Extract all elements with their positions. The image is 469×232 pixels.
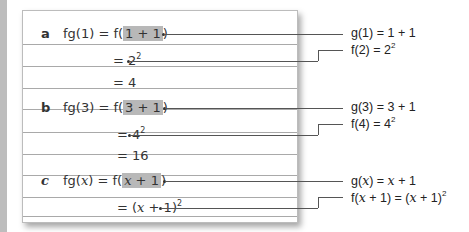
annotation-f4: f(4) = 42 xyxy=(351,117,395,131)
annotation-text: + 1) xyxy=(417,191,442,205)
annotation-g1: g(1) = 1 + 1 xyxy=(351,26,416,40)
part-a-result: = 4 xyxy=(113,75,136,91)
left-margin-strip xyxy=(0,0,7,232)
part-b-step-1: fg(3) = f(3 + 1) xyxy=(63,100,168,116)
rule-line xyxy=(23,154,297,155)
exponent: 2 xyxy=(391,41,395,50)
rule-line xyxy=(23,66,297,67)
annotation-text: ) = xyxy=(369,174,387,188)
highlighted-inner-function: 3 + 1 xyxy=(123,100,163,115)
part-label-b: b xyxy=(41,100,50,115)
highlighted-inner-function: x + 1 xyxy=(122,173,161,188)
annotation-text: + 1 xyxy=(395,174,416,188)
leader-elbow xyxy=(318,124,319,135)
rule-line xyxy=(23,44,297,45)
annotation-gx: g(x) = x + 1 xyxy=(351,173,416,188)
leader-elbow xyxy=(318,50,319,61)
leader-elbow xyxy=(318,197,319,208)
part-c-step-1: fg(x) = f(x + 1) xyxy=(63,173,166,189)
leader-line xyxy=(129,61,318,62)
leader-line xyxy=(165,108,343,109)
expression-text: fg( xyxy=(63,173,81,188)
expression-text: fg(3) = f( xyxy=(63,100,123,115)
rule-line xyxy=(23,216,297,217)
annotation-f2: f(2) = 22 xyxy=(351,43,395,57)
part-b-result: = 16 xyxy=(117,148,149,164)
leader-line xyxy=(130,135,318,136)
part-a-step-1: fg(1) = f(1 + 1) xyxy=(63,26,168,42)
exponent: 2 xyxy=(391,115,395,124)
annotation-text: g( xyxy=(351,174,362,188)
leader-line xyxy=(164,34,343,35)
annotation-text: + 1) = ( xyxy=(366,191,410,205)
annotation-g3: g(3) = 3 + 1 xyxy=(351,100,416,114)
rule-line xyxy=(23,197,297,198)
part-label-a: a xyxy=(41,26,50,41)
exponent: 2 xyxy=(136,52,141,61)
expression-text: = ( xyxy=(117,200,137,215)
highlighted-inner-function: 1 + 1 xyxy=(123,26,163,41)
annotation-text: f(4) = 4 xyxy=(351,117,391,131)
part-label-c: c xyxy=(41,173,49,188)
expression-text: ) = f( xyxy=(88,173,122,188)
annotation-text: f( xyxy=(351,191,359,205)
exponent: 2 xyxy=(140,126,145,135)
rule-line xyxy=(23,88,297,89)
variable: x xyxy=(409,190,416,205)
variable: x xyxy=(359,190,366,205)
leader-line xyxy=(318,197,343,198)
expression-text: fg(1) = f( xyxy=(63,26,123,41)
annotation-text: f(2) = 2 xyxy=(351,43,391,57)
expression-text: + 1 xyxy=(131,173,158,188)
rule-line xyxy=(23,132,297,133)
exponent: 2 xyxy=(177,199,182,208)
leader-line xyxy=(318,124,343,125)
variable: x xyxy=(388,173,395,188)
leader-line xyxy=(165,181,343,182)
annotation-fx1: f(x + 1) = (x + 1)2 xyxy=(351,190,446,205)
exponent: 2 xyxy=(442,189,446,198)
leader-line xyxy=(318,50,343,51)
worked-solution-card: a fg(1) = f(1 + 1) = 22 = 4 b fg(3) = f(… xyxy=(22,10,298,223)
leader-line xyxy=(161,208,318,209)
